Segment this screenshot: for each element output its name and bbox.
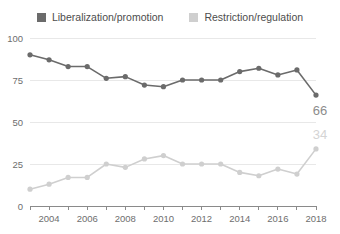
data-point [218, 77, 223, 82]
x-tick-label: 2004 [38, 213, 59, 224]
series-line-restriction [30, 149, 316, 189]
data-point [199, 161, 204, 166]
y-tick-label: 75 [12, 75, 23, 86]
data-point [313, 146, 318, 151]
data-point [161, 84, 166, 89]
data-point [46, 57, 51, 62]
y-tick-label: 100 [7, 33, 23, 44]
legend-label-liberalization: Liberalization/promotion [52, 12, 163, 23]
series-line-liberalization [30, 55, 316, 95]
x-tick-label: 2010 [153, 213, 174, 224]
legend-label-restriction: Restriction/regulation [204, 12, 303, 23]
data-point [180, 161, 185, 166]
data-point [27, 52, 32, 57]
data-point [256, 173, 261, 178]
x-axis-tick-labels: 20042006200820102012201420162018 [38, 213, 326, 224]
x-tick-label: 2012 [191, 213, 212, 224]
data-point [123, 165, 128, 170]
data-point [27, 187, 32, 192]
data-point [313, 93, 318, 98]
legend-item-liberalization: Liberalization/promotion [37, 12, 163, 23]
end-label-liberalization: 66 [313, 103, 327, 118]
square-swatch-icon [37, 13, 46, 22]
data-point [275, 72, 280, 77]
data-point [180, 77, 185, 82]
data-point [237, 170, 242, 175]
y-tick-label: 0 [18, 201, 23, 212]
x-tick-label: 2016 [267, 213, 288, 224]
x-tick-label: 2008 [115, 213, 136, 224]
data-point [294, 171, 299, 176]
data-point [85, 64, 90, 69]
legend-item-restriction: Restriction/regulation [189, 12, 303, 23]
data-point [66, 175, 71, 180]
y-tick-label: 25 [12, 159, 23, 170]
x-axis [30, 206, 316, 210]
data-point [199, 77, 204, 82]
data-point [85, 175, 90, 180]
data-point [256, 66, 261, 71]
y-tick-label: 50 [12, 117, 23, 128]
chart-container: Liberalization/promotion Restriction/reg… [0, 0, 340, 234]
data-point [46, 182, 51, 187]
y-axis-tick-labels: 0255075100 [7, 33, 23, 212]
data-point [66, 64, 71, 69]
x-tick-label: 2018 [305, 213, 326, 224]
data-point [142, 82, 147, 87]
data-point [142, 156, 147, 161]
gridlines [30, 38, 316, 164]
plot-area: 0255075100 20042006200820102012201420162… [0, 26, 340, 234]
square-swatch-icon [189, 13, 198, 22]
data-point [104, 76, 109, 81]
data-point [161, 153, 166, 158]
data-point [275, 166, 280, 171]
data-point [104, 161, 109, 166]
chart-legend: Liberalization/promotion Restriction/reg… [0, 6, 340, 28]
data-point [218, 161, 223, 166]
data-point [294, 67, 299, 72]
data-point [237, 69, 242, 74]
data-point [123, 74, 128, 79]
x-tick-label: 2014 [229, 213, 250, 224]
line-chart-svg: 0255075100 20042006200820102012201420162… [0, 26, 340, 234]
x-tick-label: 2006 [77, 213, 98, 224]
end-label-restriction: 34 [313, 127, 327, 142]
